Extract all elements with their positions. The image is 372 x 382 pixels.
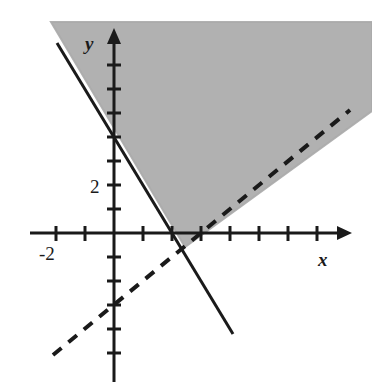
y-axis-label: y (85, 33, 93, 55)
y-tick-label-two: 2 (90, 176, 100, 198)
x-tick-label-negative-two: -2 (39, 243, 55, 265)
x-axis-label: x (318, 249, 328, 271)
shaded-solution-region (51, 22, 372, 247)
graph-figure: y x -2 2 (0, 0, 372, 382)
coordinate-plane (0, 0, 372, 382)
